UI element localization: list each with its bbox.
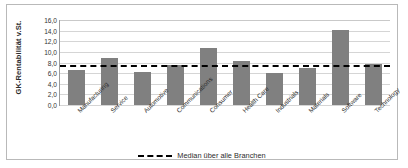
gridline <box>60 105 390 106</box>
bar-column <box>324 20 357 105</box>
y-tick-label: 2,0 <box>48 91 57 98</box>
bar <box>332 30 349 105</box>
x-tick-consumer: Consumer <box>191 107 224 153</box>
bar <box>365 64 382 105</box>
x-tick-health-care: Health Care <box>224 107 257 153</box>
x-tick-materials: Materials <box>290 107 323 153</box>
legend-label-median: Median über alle Branchen <box>177 151 265 160</box>
bar <box>233 61 250 105</box>
y-tick-label: 8,0 <box>48 59 57 66</box>
bar-column <box>357 20 390 105</box>
chart-legend: Median über alle Branchen <box>7 151 397 160</box>
y-tick-label: 14,0 <box>44 27 57 34</box>
y-tick-label: 12,0 <box>44 38 57 45</box>
bar-column <box>60 20 93 105</box>
bar <box>167 65 184 105</box>
x-tick-automotive: Automotive <box>125 107 158 153</box>
bar <box>68 70 85 105</box>
y-axis-title: GK-Rentabilität v.St. <box>14 3 23 113</box>
x-tick-industrials: Industrials <box>257 107 290 153</box>
bar-column <box>126 20 159 105</box>
x-tick-software: Software <box>323 107 356 153</box>
bar <box>299 68 316 105</box>
median-reference-line <box>60 65 390 67</box>
x-tick-technology: Technology <box>356 107 389 153</box>
x-tick-service: Service <box>92 107 125 153</box>
y-tick-label: 16,0 <box>44 17 57 24</box>
y-tick-label: 10,0 <box>44 48 57 55</box>
chart-frame: GK-Rentabilität v.St. 0,02,04,06,08,010,… <box>6 4 398 160</box>
bar <box>134 72 151 105</box>
y-tick-label: 0,0 <box>48 102 57 109</box>
median-line-swatch <box>138 155 172 157</box>
x-axis-tick-labels: ManufacturingServiceAutomotiveCommunicat… <box>59 107 389 153</box>
x-tick-manufacturing: Manufacturing <box>59 107 92 153</box>
y-tick-label: 6,0 <box>48 70 57 77</box>
y-tick-label: 4,0 <box>48 80 57 87</box>
x-tick-communications: Communications <box>158 107 191 153</box>
